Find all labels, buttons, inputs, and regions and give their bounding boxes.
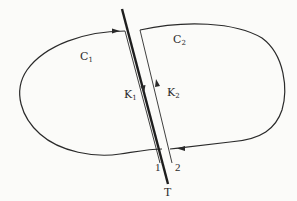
label-k2-base: K [167,86,175,99]
label-k2-sub: 2 [175,92,179,100]
label-c2-sub: 2 [181,39,185,47]
label-edge-1: 1 [155,162,161,173]
label-cut-t: T [164,186,171,198]
label-c1-sub: 1 [88,56,92,64]
label-k2: K2 [167,87,180,100]
label-k1: K1 [124,89,137,102]
label-k1-sub: 1 [132,94,136,102]
contour-c1 [20,31,162,155]
arrow-up-icon [155,79,160,87]
label-c2: C2 [173,34,186,47]
arrow-left-icon [177,146,185,151]
contour-c2 [140,24,285,149]
arrow-right-icon [112,29,120,34]
diagram-canvas: C1 C2 K1 K2 1 2 T [0,0,297,201]
label-edge-2: 2 [175,162,181,173]
label-k1-base: K [124,88,132,101]
contour-diagram [0,0,297,201]
label-c1: C1 [80,51,93,64]
